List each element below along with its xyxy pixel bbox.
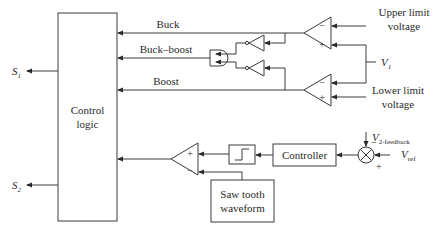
svg-text:+: + [319, 39, 325, 50]
upper-limit-label-1: Upper limit [378, 6, 429, 18]
buck-boost-label: Buck–boost [140, 43, 193, 55]
svg-text:−: − [319, 77, 325, 88]
lower-limit-label-2: voltage [382, 98, 414, 110]
v1-label: V1 [381, 56, 391, 71]
pwm-comparator: + − [118, 143, 242, 180]
buck-boost-signal: Buck–boost [118, 43, 210, 58]
lower-comparator: − + Lower limit voltage [304, 74, 424, 110]
controller-label: Controller [282, 149, 328, 161]
controller-block: Controller [273, 144, 358, 166]
lower-limit-label-1: Lower limit [372, 84, 424, 96]
s2-label: S2 [12, 179, 22, 194]
output-s2: S2 [12, 179, 58, 194]
v2-feedback-label: V2-feedback [372, 131, 410, 146]
control-logic-label-2: logic [77, 118, 99, 130]
sawtooth-label-1: Saw tooth [220, 188, 265, 200]
summing-junction: − + V2-feedback Vref [358, 131, 416, 172]
svg-text:−: − [187, 165, 193, 176]
svg-text:+: + [376, 161, 382, 172]
sawtooth-block: Saw tooth waveform [211, 180, 274, 222]
upper-limit-label-2: voltage [388, 20, 420, 32]
v1-input: V1 [366, 45, 391, 83]
inverter-upper [216, 33, 285, 54]
inverter-upper-icon [249, 35, 264, 51]
pwm-comparator-icon [171, 143, 198, 175]
output-s1: S1 [12, 65, 58, 80]
boost-label: Boost [153, 75, 179, 87]
diagram-canvas: Control logic S1 S2 Buck Buck–boost Boos… [0, 0, 442, 237]
s1-label: S1 [12, 65, 21, 80]
lower-comparator-icon [304, 74, 331, 106]
inverter-lower-icon [249, 60, 264, 76]
boost-signal: Boost [118, 75, 304, 90]
control-logic-label-1: Control [71, 104, 105, 116]
and-gate-icon [210, 50, 228, 66]
control-logic-block: Control logic [58, 13, 117, 221]
svg-text:+: + [187, 148, 193, 159]
buck-label: Buck [156, 18, 180, 30]
inverter-lower [216, 60, 285, 90]
limiter-block [229, 145, 273, 164]
svg-text:−: − [319, 20, 325, 31]
upper-comparator: − + Upper limit voltage [304, 6, 430, 50]
svg-text:+: + [319, 92, 325, 103]
upper-comparator-icon [304, 17, 331, 49]
buck-signal: Buck [118, 18, 304, 33]
vref-label: Vref [401, 148, 416, 163]
sawtooth-label-2: waveform [220, 202, 265, 214]
